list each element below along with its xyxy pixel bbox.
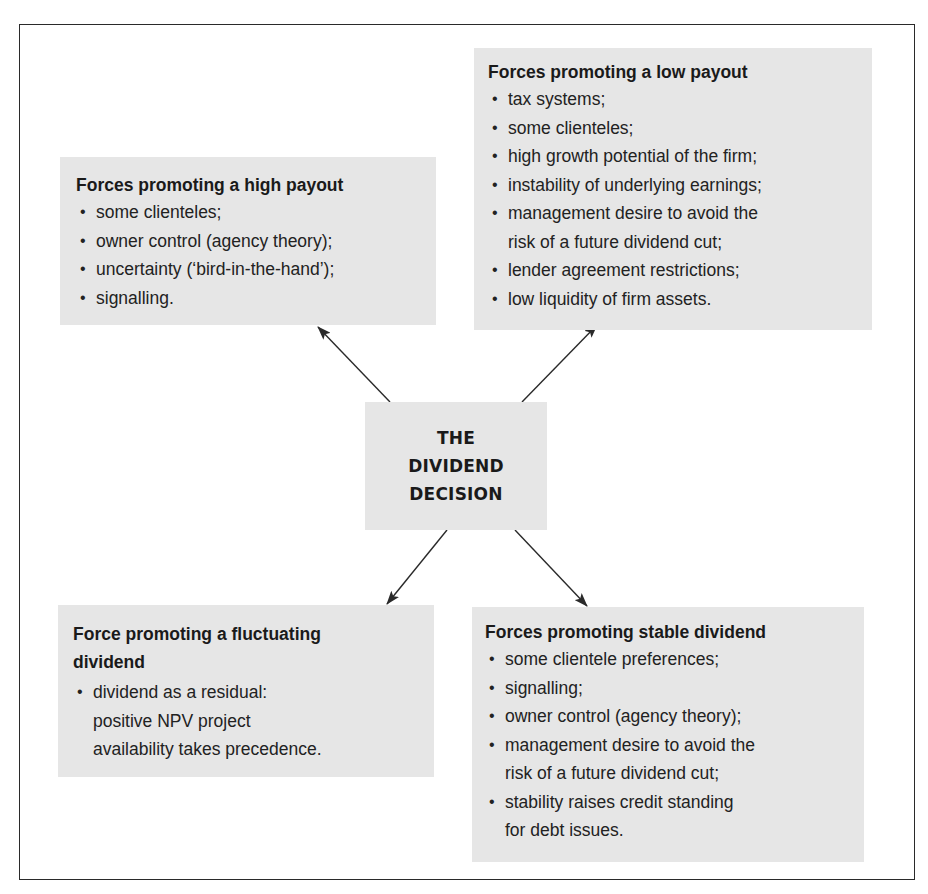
list-item: low liquidity of firm assets.: [488, 285, 872, 314]
stable-dividend-list: some clientele preferences; signalling; …: [485, 645, 864, 845]
list-item: uncertainty (‘bird-in-the-hand’);: [76, 255, 436, 284]
list-item: owner control (agency theory);: [76, 227, 436, 256]
fluctuating-dividend-title: Force promoting a fluctuating dividend: [73, 620, 393, 676]
list-item: some clienteles;: [488, 114, 872, 143]
list-item: dividend as a residual: positive NPV pro…: [73, 678, 434, 764]
list-item: management desire to avoid the risk of a…: [485, 731, 864, 788]
high-payout-title: Forces promoting a high payout: [76, 174, 436, 196]
list-item: instability of underlying earnings;: [488, 171, 872, 200]
list-item: some clientele preferences;: [485, 645, 864, 674]
list-item: management desire to avoid the risk of a…: [488, 199, 872, 256]
fluctuating-dividend-box: Force promoting a fluctuating dividend d…: [58, 605, 434, 777]
low-payout-list: tax systems; some clienteles; high growt…: [488, 85, 872, 313]
low-payout-title: Forces promoting a low payout: [488, 61, 872, 83]
list-item: signalling.: [76, 284, 436, 313]
high-payout-list: some clienteles; owner control (agency t…: [76, 198, 436, 312]
list-item: some clienteles;: [76, 198, 436, 227]
fluctuating-dividend-list: dividend as a residual: positive NPV pro…: [73, 678, 434, 764]
list-item: lender agreement restrictions;: [488, 256, 872, 285]
list-item: high growth potential of the firm;: [488, 142, 872, 171]
stable-dividend-box: Forces promoting stable dividend some cl…: [472, 607, 864, 862]
list-item: owner control (agency theory);: [485, 702, 864, 731]
list-item: stability raises credit standing for deb…: [485, 788, 864, 845]
list-item: signalling;: [485, 674, 864, 703]
high-payout-box: Forces promoting a high payout some clie…: [60, 157, 436, 325]
low-payout-box: Forces promoting a low payout tax system…: [474, 48, 872, 330]
dividend-decision-box: THE DIVIDEND DECISION: [365, 402, 547, 530]
list-item: tax systems;: [488, 85, 872, 114]
dividend-decision-title: THE DIVIDEND DECISION: [408, 424, 504, 508]
stable-dividend-title: Forces promoting stable dividend: [485, 621, 864, 643]
